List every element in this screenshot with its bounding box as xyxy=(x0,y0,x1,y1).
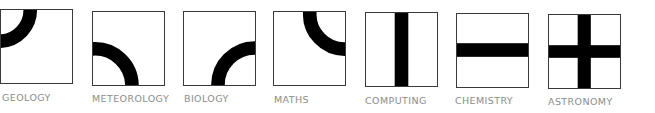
tile-chemistry xyxy=(456,13,529,88)
quarter-arc-top-right-icon xyxy=(274,12,345,85)
label-astronomy: ASTRONOMY xyxy=(548,96,613,107)
tile-meteorology xyxy=(92,11,165,86)
tile-astronomy xyxy=(548,14,621,89)
label-chemistry: CHEMISTRY xyxy=(455,95,513,106)
tile-computing xyxy=(365,12,438,87)
vertical-bar-icon xyxy=(366,13,437,86)
label-biology: BIOLOGY xyxy=(184,93,229,104)
quarter-arc-bottom-left-icon xyxy=(93,12,164,85)
label-computing: COMPUTING xyxy=(365,95,427,106)
quarter-arc-bottom-right-icon xyxy=(184,12,255,85)
label-maths: MATHS xyxy=(274,94,309,105)
horizontal-bar-icon xyxy=(457,14,528,87)
cross-icon xyxy=(549,15,620,88)
tile-biology xyxy=(183,11,256,86)
label-meteorology: METEOROLOGY xyxy=(92,93,169,104)
label-geology: GEOLOGY xyxy=(2,92,51,103)
quarter-arc-top-left-icon xyxy=(1,10,72,83)
tile-maths xyxy=(273,11,346,86)
tile-geology xyxy=(0,9,73,84)
